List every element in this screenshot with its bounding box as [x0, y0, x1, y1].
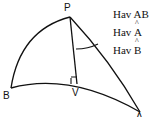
formula-hav-ab: Hav AB: [113, 9, 149, 20]
vertex-label-p: P: [64, 3, 71, 13]
arc-pb: [11, 17, 70, 88]
formula-hav-b: Hav B: [113, 45, 141, 56]
hat-b: B: [134, 45, 141, 56]
vertex-label-a: A: [136, 112, 143, 117]
perpendicular-pv: [70, 17, 77, 84]
vertex-label-v: V: [72, 88, 79, 98]
vertex-label-b: B: [3, 91, 10, 101]
